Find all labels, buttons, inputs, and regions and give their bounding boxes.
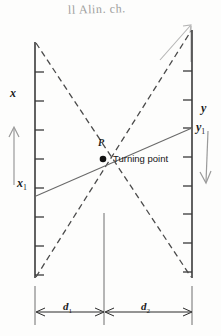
axis-label-y1: y1 <box>196 120 205 136</box>
left-axis-ticks <box>35 72 44 275</box>
right-direction-arrow-down <box>200 131 211 183</box>
turning-point-label: Turning point <box>113 153 168 164</box>
dimension-label-d2-sub: 2 <box>147 307 151 315</box>
dimension-extension-lines <box>35 286 192 325</box>
kinematics-diagram <box>0 0 221 336</box>
point-label-p: P <box>98 137 104 148</box>
axis-label-y1-sub: 1 <box>201 127 205 136</box>
axis-label-x1-sub: 1 <box>23 183 27 192</box>
axis-label-x: x <box>10 86 16 101</box>
left-axis <box>35 42 44 278</box>
dimension-label-d2: d2 <box>141 300 150 315</box>
axis-label-y: y <box>201 101 206 116</box>
figure-page: ll Alin. ch. <box>0 0 221 336</box>
dimension-label-d1: d1 <box>63 300 72 315</box>
dimension-label-d1-sub: 1 <box>69 307 73 315</box>
right-axis <box>183 30 192 278</box>
turning-point-marker <box>100 156 107 163</box>
axis-label-x1: x1 <box>17 176 27 192</box>
right-axis-ticks <box>183 71 192 272</box>
